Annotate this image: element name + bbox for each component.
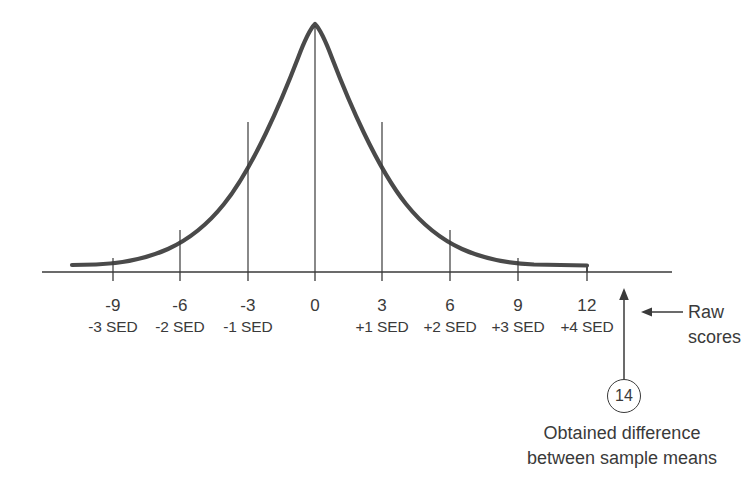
obtained-caption-line-2: between sample means <box>487 446 756 471</box>
obtained-caption-line-1: Obtained difference <box>487 421 756 446</box>
axis-score-plus9: 9 <box>478 296 558 316</box>
axis-label-plus12: 12 +4 SED <box>547 296 627 336</box>
distribution-plot <box>0 0 756 482</box>
axis-score-plus12: 12 <box>547 296 627 316</box>
raw-scores-annotation: Raw scores <box>688 300 741 350</box>
obtained-value-circle: 14 <box>607 379 641 413</box>
raw-scores-line-2: scores <box>688 325 741 350</box>
axis-label-plus9: 9 +3 SED <box>478 296 558 336</box>
raw-scores-line-1: Raw <box>688 300 741 325</box>
bell-curve <box>72 24 587 266</box>
raw-scores-arrowhead-icon <box>641 307 652 316</box>
axis-sed-minus1sed: -1 SED <box>208 318 288 336</box>
obtained-difference-caption: Obtained difference between sample means <box>487 421 756 471</box>
axis-sed-plus4sed: +4 SED <box>547 318 627 336</box>
normal-distribution-figure: -9 -3 SED -6 -2 SED -3 -1 SED 0 3 +1 SED… <box>0 0 756 482</box>
axis-sed-plus3sed: +3 SED <box>478 318 558 336</box>
